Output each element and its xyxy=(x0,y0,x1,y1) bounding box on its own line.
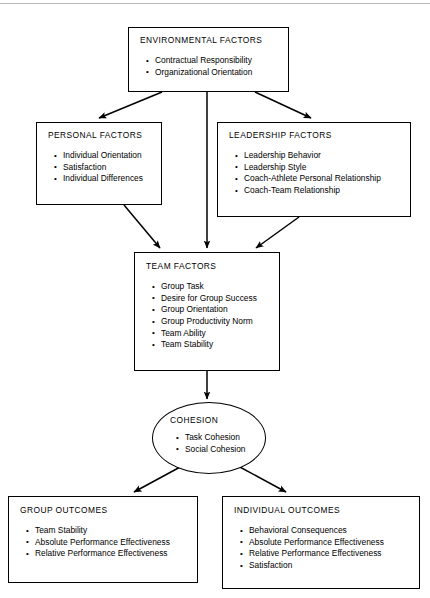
list-item: Team Stability xyxy=(152,339,279,351)
node-title: COHESION xyxy=(170,416,265,425)
node-leadership-factors: LEADERSHIP FACTORS Leadership Behavior L… xyxy=(217,122,411,217)
node-personal-factors: PERSONAL FACTORS Individual Orientation … xyxy=(36,122,162,205)
list-item: Individual Differences xyxy=(54,173,161,185)
list-item: Coach-Athlete Personal Relationship xyxy=(235,173,410,185)
node-group-outcomes: GROUP OUTCOMES Team Stability Absolute P… xyxy=(8,496,198,583)
list-item: Relative Performance Effectiveness xyxy=(26,548,197,560)
list-item: Leadership Behavior xyxy=(235,150,410,162)
list-item: Team Stability xyxy=(26,525,197,537)
node-item-list: Leadership Behavior Leadership Style Coa… xyxy=(235,150,410,196)
list-item: Organizational Orientation xyxy=(146,67,288,79)
list-item: Task Cohesion xyxy=(176,432,265,444)
node-item-list: Task Cohesion Social Cohesion xyxy=(176,432,265,455)
list-item: Social Cohesion xyxy=(176,444,265,456)
list-item: Behavioral Consequences xyxy=(240,525,419,537)
list-item: Leadership Style xyxy=(235,162,410,174)
list-item: Relative Performance Effectiveness xyxy=(240,548,419,560)
list-item: Group Orientation xyxy=(152,304,279,316)
list-item: Satisfaction xyxy=(240,560,419,572)
node-title: LEADERSHIP FACTORS xyxy=(229,131,410,140)
list-item: Team Ability xyxy=(152,328,279,340)
node-item-list: Team Stability Absolute Performance Effe… xyxy=(26,525,197,560)
node-item-list: Group Task Desire for Group Success Grou… xyxy=(152,281,279,351)
list-item: Coach-Team Relationship xyxy=(235,185,410,197)
list-item: Desire for Group Success xyxy=(152,293,279,305)
node-individual-outcomes: INDIVIDUAL OUTCOMES Behavioral Consequen… xyxy=(222,496,420,589)
node-title: GROUP OUTCOMES xyxy=(20,506,197,515)
node-environmental-factors: ENVIRONMENTAL FACTORS Contractual Respon… xyxy=(128,27,289,92)
list-item: Group Productivity Norm xyxy=(152,316,279,328)
node-team-factors: TEAM FACTORS Group Task Desire for Group… xyxy=(134,252,280,371)
node-cohesion: COHESION Task Cohesion Social Cohesion xyxy=(152,402,266,474)
list-item: Individual Orientation xyxy=(54,150,161,162)
list-item: Satisfaction xyxy=(54,162,161,174)
list-item: Absolute Performance Effectiveness xyxy=(240,537,419,549)
list-item: Group Task xyxy=(152,281,279,293)
list-item: Absolute Performance Effectiveness xyxy=(26,537,197,549)
node-item-list: Behavioral Consequences Absolute Perform… xyxy=(240,525,419,571)
node-title: INDIVIDUAL OUTCOMES xyxy=(234,506,419,515)
node-title: PERSONAL FACTORS xyxy=(48,131,161,140)
node-item-list: Contractual Responsibility Organizationa… xyxy=(146,55,288,78)
node-title: TEAM FACTORS xyxy=(146,262,279,271)
node-title: ENVIRONMENTAL FACTORS xyxy=(140,36,288,45)
list-item: Contractual Responsibility xyxy=(146,55,288,67)
node-item-list: Individual Orientation Satisfaction Indi… xyxy=(54,150,161,185)
